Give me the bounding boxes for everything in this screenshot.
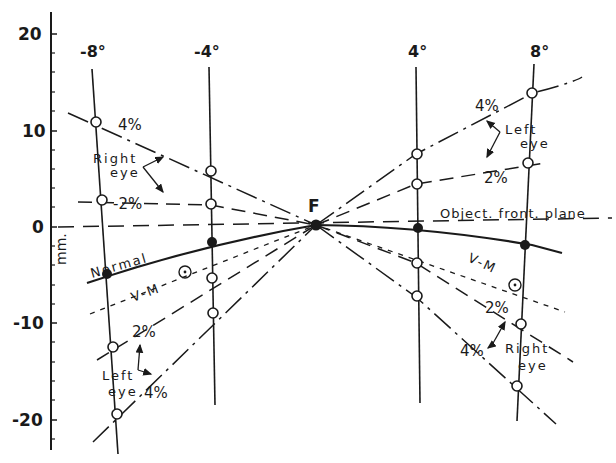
right-eye-annotation-left-line1: Right bbox=[93, 151, 137, 166]
y-tick-neg20: -20 bbox=[12, 410, 43, 430]
left-eye-4pct-label-right: 4% bbox=[475, 97, 499, 115]
normal-label: Normal bbox=[89, 250, 150, 281]
left-eye-4pct-label-left: 4% bbox=[144, 384, 168, 402]
horopter-figure: 20 10 0 -10 -20 mm. -8° -4° 4° 8° Object… bbox=[0, 0, 616, 463]
left-eye-annotation-left-line1: Left bbox=[102, 368, 134, 383]
y-tick-0: 0 bbox=[32, 217, 44, 237]
left-eye-2pct-label-right: 2% bbox=[484, 169, 508, 187]
y-tick-neg10: -10 bbox=[13, 313, 44, 333]
right-eye-2pct-label-left: -2% bbox=[113, 195, 142, 213]
left-eye-annotation-right-line1: Left bbox=[505, 122, 537, 137]
right-eye-annotation-left-line2: eye bbox=[110, 165, 140, 180]
left-eye-annotation-left-line2: eye bbox=[108, 384, 138, 399]
left-eye-4pct-curve-right bbox=[316, 77, 582, 225]
right-eye-2pct-label-right: 2% bbox=[485, 299, 509, 317]
right-eye-4pct-label-right: 4% bbox=[460, 342, 484, 360]
normal-points bbox=[102, 223, 530, 279]
y-tick-10: 10 bbox=[22, 121, 46, 141]
column-label-8: 8° bbox=[530, 42, 549, 61]
right-eye-annotation-right-line1: Right bbox=[505, 341, 549, 356]
object-front-plane-label: Object. front. plane bbox=[440, 206, 586, 221]
left-eye-2pct-label-left: 2% bbox=[132, 323, 156, 341]
right-eye-4pct-curve-left bbox=[68, 113, 316, 225]
column-label-neg8: -8° bbox=[80, 42, 106, 61]
vm-label-left: V-M bbox=[129, 280, 162, 304]
y-axis: 20 10 0 -10 -20 mm. bbox=[12, 12, 69, 450]
fixation-point bbox=[311, 220, 322, 231]
y-axis-label: mm. bbox=[53, 233, 69, 265]
left-eye-annotation-right-line2: eye bbox=[520, 136, 550, 151]
annotation-arrows bbox=[138, 121, 505, 374]
y-tick-20: 20 bbox=[18, 24, 42, 44]
vm-label-right: V-M bbox=[466, 250, 500, 276]
fixation-label: F bbox=[308, 196, 320, 216]
column-label-4: 4° bbox=[408, 42, 427, 61]
column-label-neg4: -4° bbox=[194, 42, 220, 61]
right-eye-4pct-label-left: 4% bbox=[118, 116, 142, 134]
right-eye-annotation-right-line2: eye bbox=[518, 358, 548, 373]
